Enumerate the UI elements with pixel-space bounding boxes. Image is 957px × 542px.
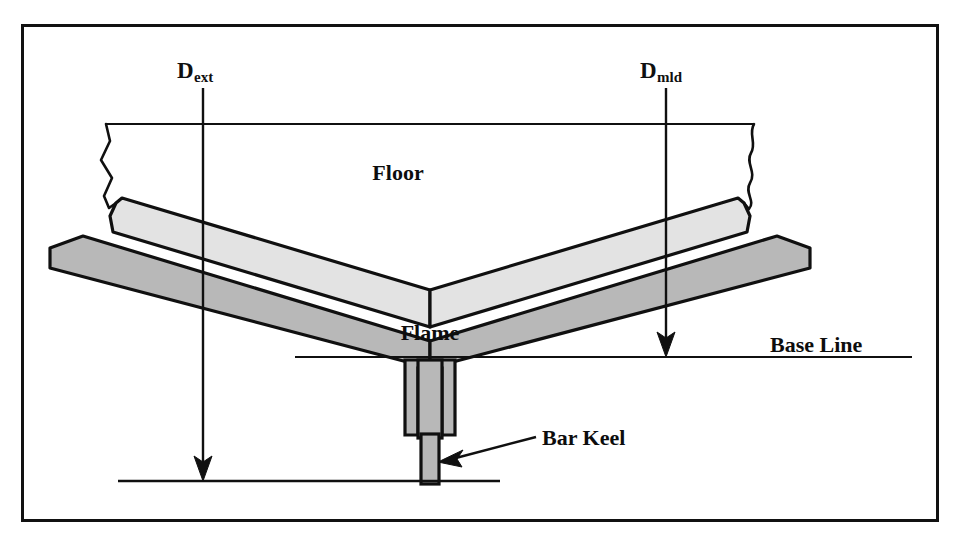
- technical-diagram: D ext D mld Floor Flame Base Line Bar Ke…: [0, 0, 957, 542]
- label-bar-keel: Bar Keel: [542, 425, 625, 450]
- d-mld-base-text: D: [640, 58, 657, 83]
- label-flame: Flame: [401, 320, 460, 345]
- label-base-line: Base Line: [770, 332, 863, 357]
- label-floor: Floor: [372, 160, 424, 185]
- d-ext-subscript-text: ext: [194, 69, 213, 85]
- bar-keel-bar: [421, 434, 439, 484]
- diagram-root: D ext D mld Floor Flame Base Line Bar Ke…: [0, 0, 957, 542]
- d-ext-base-text: D: [177, 58, 194, 83]
- d-mld-subscript-text: mld: [657, 69, 683, 85]
- keel-web: [418, 360, 442, 438]
